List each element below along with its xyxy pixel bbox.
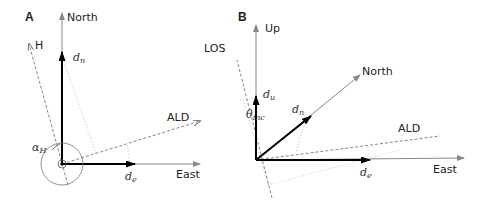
- origin-dot: [60, 162, 64, 166]
- los-base-line: [268, 150, 400, 185]
- panel-a: A North East H ALD dn de αH: [25, 10, 200, 185]
- de-label: de: [125, 170, 137, 184]
- diagram-canvas: A North East H ALD dn de αH B Up: [0, 0, 487, 208]
- du-label: du: [263, 88, 275, 102]
- ald-label-b: ALD: [398, 122, 420, 135]
- alpha-h-label: αH: [32, 141, 47, 155]
- du-projection-line: [240, 98, 256, 100]
- panel-a-label: A: [25, 10, 34, 24]
- dn-projection-line: [62, 56, 96, 153]
- los-label: LOS: [204, 42, 225, 55]
- east-axis-b-label: East: [433, 163, 457, 176]
- ald-direction-line: [62, 121, 200, 164]
- ald-label: ALD: [167, 111, 189, 124]
- dn-vector-b: [256, 116, 311, 160]
- los-direction-line: [237, 60, 272, 198]
- dn-label-b: dn: [292, 103, 304, 117]
- east-axis-label: East: [176, 168, 200, 181]
- north-axis-label: North: [67, 11, 98, 24]
- ald-direction-line-b: [256, 136, 440, 160]
- heading-label: H: [35, 39, 43, 52]
- panel-b-label: B: [238, 10, 247, 24]
- panel-b: B Up East North LOS ALD du dn de θinc: [204, 10, 464, 198]
- de-projection-line: [127, 143, 130, 164]
- north-axis-b-label: North: [362, 65, 393, 78]
- up-axis-label: Up: [265, 22, 280, 35]
- dn-label: dn: [73, 51, 85, 65]
- de-label-b: de: [360, 166, 372, 180]
